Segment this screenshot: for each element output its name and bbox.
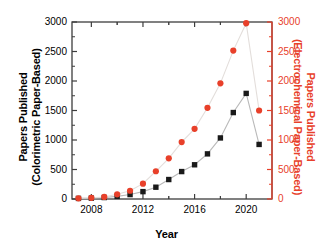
data-point-circle bbox=[243, 20, 249, 26]
y-axis-left-tick-label: 2000 bbox=[37, 75, 67, 86]
y-axis-right-tick-label: 2000 bbox=[278, 75, 300, 86]
y-axis-left-tick-label: 500 bbox=[37, 164, 67, 175]
y-axis-left-title-line1: Papers Published bbox=[17, 72, 29, 161]
data-point-square bbox=[153, 185, 158, 190]
y-axis-right-tick-label: 500 bbox=[278, 164, 295, 175]
data-point-circle bbox=[191, 126, 197, 132]
y-axis-left-tick-label: 1500 bbox=[37, 105, 67, 116]
y-axis-right-tick-label: 1000 bbox=[278, 134, 300, 145]
plot-frame-rect bbox=[72, 22, 272, 199]
y-axis-right-title-line1: Papers Published bbox=[305, 72, 317, 161]
plot-frame bbox=[72, 22, 272, 199]
y-axis-right-tick-label: 3000 bbox=[278, 16, 300, 27]
data-point-square bbox=[231, 110, 236, 115]
data-point-square bbox=[166, 177, 171, 182]
data-point-square bbox=[243, 91, 248, 96]
data-point-circle bbox=[217, 80, 223, 86]
data-point-circle bbox=[166, 155, 172, 161]
data-point-circle bbox=[75, 195, 81, 201]
x-axis-tick-label: 2008 bbox=[76, 204, 106, 215]
y-axis-left-tick-label: 0 bbox=[37, 193, 67, 204]
x-axis-tick-label: 2016 bbox=[180, 204, 210, 215]
data-point-circle bbox=[88, 195, 94, 201]
data-point-square bbox=[140, 189, 145, 194]
y-axis-right-tick-label: 1500 bbox=[278, 105, 300, 116]
x-axis-tick-label: 2020 bbox=[231, 204, 261, 215]
data-point-circle bbox=[101, 194, 107, 200]
data-point-circle bbox=[153, 168, 159, 174]
data-point-circle bbox=[114, 191, 120, 197]
x-axis-tick-label: 2012 bbox=[128, 204, 158, 215]
series-line-1 bbox=[78, 93, 259, 198]
data-point-circle bbox=[140, 181, 146, 187]
data-point-square bbox=[179, 169, 184, 174]
papers-published-dual-axis-chart bbox=[0, 0, 333, 247]
y-axis-left-tick-label: 1000 bbox=[37, 134, 67, 145]
data-point-square bbox=[205, 151, 210, 156]
y-axis-right-tick-label: 0 bbox=[278, 193, 284, 204]
data-point-square bbox=[218, 135, 223, 140]
data-point-circle bbox=[230, 48, 236, 54]
data-point-circle bbox=[204, 105, 210, 111]
data-point-circle bbox=[179, 139, 185, 145]
axis-ticks bbox=[72, 22, 272, 199]
y-axis-left-tick-label: 2500 bbox=[37, 46, 67, 57]
data-point-circle bbox=[127, 188, 133, 194]
series-markers bbox=[75, 20, 262, 201]
data-point-square bbox=[256, 142, 261, 147]
y-axis-right-tick-label: 2500 bbox=[278, 46, 300, 57]
x-axis-title: Year bbox=[0, 228, 333, 240]
data-point-circle bbox=[256, 107, 262, 113]
y-axis-left-tick-label: 3000 bbox=[37, 16, 67, 27]
data-point-square bbox=[192, 162, 197, 167]
